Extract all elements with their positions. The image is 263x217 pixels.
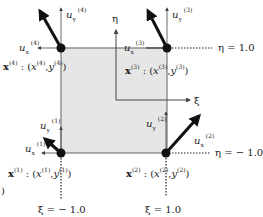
- node-1-ux-label: ux(1): [25, 140, 45, 156]
- xi-left-label: ξ = − 1.0: [38, 204, 86, 215]
- node-4-displacement-arrow: [40, 11, 61, 48]
- node-4-ux-label: ux(4): [19, 39, 39, 55]
- node-4-coord-label: x(4) : (x(4),y(4)): [3, 59, 67, 72]
- node-4-uy-label: uy(4): [66, 6, 86, 23]
- node-1-coord-label: x(1) : (x(1),y(1)): [8, 166, 72, 179]
- node-1-uy-label: uy(1): [40, 117, 60, 134]
- eta-axis-label: η: [112, 13, 118, 24]
- node-4-dot: [57, 44, 66, 53]
- node-2-ux-label: ux(2): [194, 132, 214, 148]
- node-3-dot: [163, 44, 172, 53]
- node-3-uy-label: uy(3): [172, 6, 192, 23]
- xi-right-label: ξ = 1.0: [145, 204, 181, 215]
- node-3: uy(3) ux(3) x(3) : (x(3),y(3)): [124, 6, 192, 76]
- eta-top-label: η = 1.0: [218, 42, 255, 53]
- node-3-displacement-arrow: [148, 11, 167, 48]
- node-1-dot: [57, 149, 66, 158]
- node-2-coord-label: x(2) : (x(2),y(2)): [126, 166, 190, 179]
- clipped-fragment: ): [1, 185, 5, 196]
- eta-bottom-label: η = − 1.0: [215, 147, 263, 158]
- node-2-dot: [162, 149, 171, 158]
- element-diagram: η ξ η = 1.0 η = − 1.0 ξ = − 1.0 ξ = 1.0 …: [0, 0, 263, 217]
- xi-axis-label: ξ: [194, 95, 200, 106]
